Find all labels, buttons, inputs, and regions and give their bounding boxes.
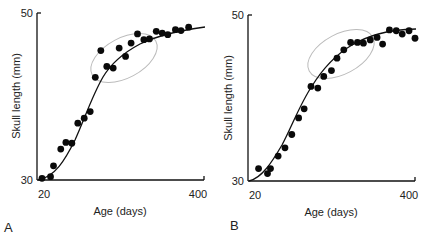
data-point: [122, 53, 129, 60]
figure: 50 30 20 400 Age (days) Skull length (mm…: [0, 0, 426, 238]
x-tick-max: 400: [400, 189, 418, 201]
data-point: [399, 31, 406, 38]
panel-label: A: [4, 220, 13, 235]
data-point: [146, 35, 153, 42]
data-point: [116, 45, 123, 52]
data-point: [103, 63, 110, 70]
data-point: [406, 27, 413, 34]
y-axis: [37, 13, 41, 180]
x-axis-label: Age (days): [304, 206, 357, 218]
data-point: [367, 37, 374, 44]
y-axis-label: Skull length (mm): [10, 53, 22, 139]
data-point: [74, 120, 81, 127]
y-tick-max: 50: [21, 7, 33, 19]
data-point: [308, 83, 315, 90]
x-axis: [37, 176, 204, 180]
data-point: [128, 40, 135, 47]
x-axis-label: Age (days): [93, 205, 146, 217]
y-tick-min: 30: [232, 175, 244, 187]
data-point: [275, 153, 282, 160]
y-tick-max: 50: [232, 9, 244, 21]
data-point: [282, 144, 289, 151]
data-point: [295, 115, 302, 122]
data-point: [153, 28, 160, 35]
data-point: [50, 162, 57, 169]
data-point: [288, 131, 295, 138]
data-point: [39, 175, 46, 182]
data-point: [314, 85, 321, 92]
data-point: [185, 24, 192, 31]
data-point: [379, 41, 386, 48]
data-point: [110, 65, 117, 72]
data-point: [97, 47, 104, 54]
data-point: [68, 140, 75, 147]
panel-label: B: [230, 218, 239, 233]
data-point: [87, 108, 94, 115]
chart-panel-b: 50 30 20 400 Age (days) Skull length (mm…: [222, 9, 418, 233]
data-point: [334, 55, 341, 62]
data-point: [354, 39, 361, 46]
data-point: [92, 74, 99, 81]
x-axis: [248, 177, 415, 181]
y-axis-label: Skull length (mm): [222, 55, 234, 141]
data-point: [340, 46, 347, 53]
data-point: [393, 27, 400, 34]
data-point: [57, 146, 64, 153]
y-tick-min: 30: [21, 174, 33, 186]
data-point: [328, 67, 335, 74]
data-point: [62, 139, 69, 146]
x-tick-max: 400: [189, 188, 207, 200]
data-point: [374, 34, 381, 41]
data-point: [255, 165, 262, 172]
chart-panel-a: 50 30 20 400 Age (days) Skull length (mm…: [4, 7, 207, 235]
data-point: [386, 27, 393, 34]
data-point: [347, 39, 354, 46]
x-tick-min: 20: [249, 189, 261, 201]
data-point: [178, 27, 185, 34]
data-point: [81, 115, 88, 122]
data-point: [267, 165, 274, 172]
data-points: [39, 24, 192, 182]
data-point: [320, 73, 327, 80]
y-axis: [248, 15, 252, 181]
data-point: [301, 105, 308, 112]
data-point: [412, 35, 419, 42]
data-points: [255, 27, 418, 177]
x-tick-min: 20: [38, 188, 50, 200]
data-point: [134, 30, 141, 37]
data-point: [164, 31, 171, 38]
data-point: [360, 40, 367, 47]
highlight-ellipse: [300, 19, 382, 88]
data-point: [47, 173, 54, 180]
fit-curve: [249, 29, 416, 181]
